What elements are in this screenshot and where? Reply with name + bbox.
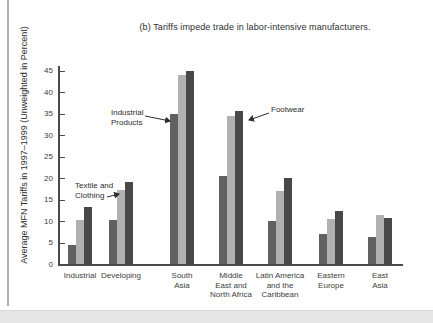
annotation-footwear: Footwear [271, 105, 304, 115]
bar-industrial-products [368, 237, 376, 264]
y-axis-tick [59, 157, 65, 158]
y-axis-tick [59, 114, 65, 115]
category-label: East Asia [340, 271, 420, 290]
bar-footwear [335, 211, 343, 264]
y-tick-label: 25 [31, 152, 53, 161]
y-tick-label: 45 [31, 66, 53, 75]
y-axis-tick [59, 200, 65, 201]
y-axis-tick [59, 135, 65, 136]
bar-textile-and-clothing [117, 190, 125, 264]
figure-page: (b) Tariffs impede trade in labor-intens… [0, 0, 433, 323]
bar-industrial-products [219, 176, 227, 264]
annotation-arrow-textile-clothing [105, 188, 125, 200]
bar-industrial-products [319, 234, 327, 264]
y-tick-label: 30 [31, 131, 53, 140]
bar-industrial-products [109, 220, 117, 264]
annotation-arrow-industrial-products [143, 112, 177, 126]
bar-footwear [84, 207, 92, 264]
y-tick-label: 15 [31, 195, 53, 204]
annotation-arrow-footwear [242, 108, 272, 124]
bar-textile-and-clothing [376, 215, 384, 264]
bar-textile-and-clothing [276, 191, 284, 264]
bar-footwear [235, 111, 243, 264]
y-axis-tick [59, 178, 65, 179]
bar-industrial-products [268, 221, 276, 264]
bar-footwear [125, 182, 133, 264]
bar-textile-and-clothing [327, 219, 335, 264]
y-tick-label: 10 [31, 217, 53, 226]
y-axis-tick [59, 92, 65, 93]
x-axis-line [58, 264, 403, 266]
bar-textile-and-clothing [76, 220, 84, 264]
y-tick-label: 5 [31, 238, 53, 247]
bar-footwear [384, 218, 392, 264]
bar-industrial-products [68, 245, 76, 264]
y-tick-label: 0 [31, 260, 53, 269]
y-tick-label: 40 [31, 88, 53, 97]
y-axis-line [58, 66, 60, 264]
bar-textile-and-clothing [227, 116, 235, 264]
bar-footwear [186, 71, 194, 265]
bar-industrial-products [170, 114, 178, 265]
y-axis-tick [59, 243, 65, 244]
y-tick-label: 20 [31, 174, 53, 183]
annotation-industrial-products: Industrial Products [111, 108, 143, 127]
bar-footwear [284, 178, 292, 264]
y-axis-tick [59, 221, 65, 222]
y-axis-tick [59, 264, 65, 265]
plot-area: 051015202530354045IndustrialDevelopingSo… [0, 0, 433, 323]
bar-textile-and-clothing [178, 75, 186, 264]
y-tick-label: 35 [31, 109, 53, 118]
y-axis-tick [59, 71, 65, 72]
